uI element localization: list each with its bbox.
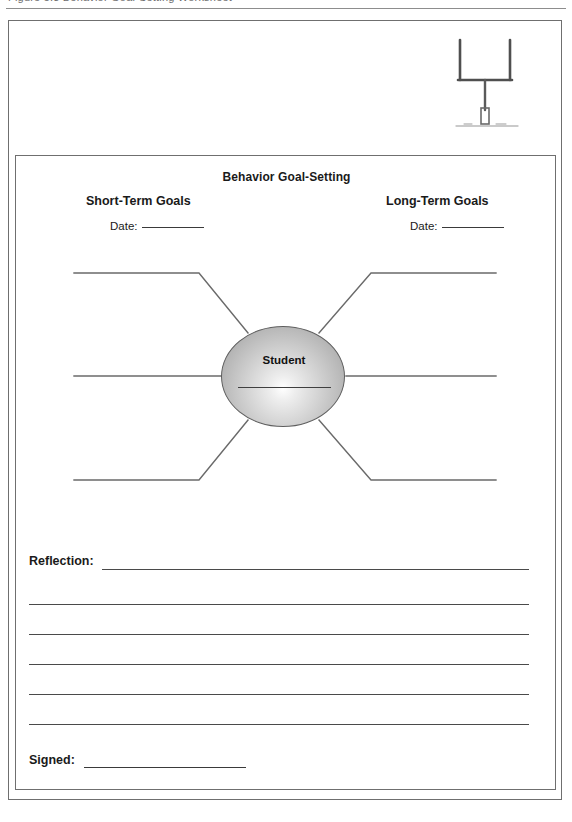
worksheet-frame: Behavior Goal-Setting Short-Term Goals L…: [15, 155, 556, 790]
signature-rule[interactable]: [84, 767, 246, 768]
header-divider: [6, 8, 566, 9]
reflection-rule-5[interactable]: [29, 694, 529, 695]
reflection-rule-3[interactable]: [29, 634, 529, 635]
goal-post-icon: [444, 32, 540, 136]
student-bubble[interactable]: Student: [221, 326, 345, 427]
student-name-write-in-rule[interactable]: [238, 387, 331, 388]
reflection-rule-4[interactable]: [29, 664, 529, 665]
reflection-rule-2[interactable]: [29, 604, 529, 605]
worksheet-page: Figure 5.3 Behavior Goal-Setting Workshe…: [0, 0, 572, 822]
goal-spoke-diagram: [16, 156, 557, 791]
reflection-label: Reflection:: [29, 554, 94, 568]
signed-label: Signed:: [29, 753, 75, 767]
reflection-rule-1[interactable]: [102, 569, 529, 570]
student-bubble-label: Student: [222, 354, 346, 366]
reflection-rule-6[interactable]: [29, 724, 529, 725]
page-header-caption: Figure 5.3 Behavior Goal-Setting Workshe…: [8, 0, 232, 3]
